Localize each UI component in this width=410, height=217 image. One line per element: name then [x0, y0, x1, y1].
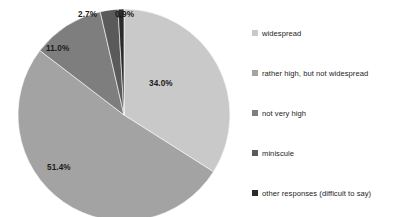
slice-label-widespread: 34.0% [149, 79, 173, 88]
legend-item[interactable]: rather high, but not widespread [252, 67, 368, 79]
legend-item-label: widespread [262, 29, 301, 38]
pie-svg [0, 0, 248, 217]
pie-plot-area: 34.0% 51.4% 11.0% 2.7% 0.9% [0, 0, 248, 217]
pie-chart-figure: 34.0% 51.4% 11.0% 2.7% 0.9% widespreadra… [0, 0, 410, 217]
chart-legend: widespreadrather high, but not widesprea… [252, 0, 410, 217]
slice-label-miniscule: 2.7% [78, 10, 97, 19]
legend-swatch-icon [252, 150, 258, 156]
legend-swatch-icon [252, 30, 258, 36]
legend-swatch-icon [252, 190, 258, 196]
legend-item[interactable]: widespread [252, 27, 301, 39]
legend-item[interactable]: miniscule [252, 147, 294, 159]
legend-item-label: rather high, but not widespread [262, 69, 368, 78]
legend-swatch-icon [252, 110, 258, 116]
legend-item-label: miniscule [262, 149, 294, 158]
legend-item-label: not very high [262, 109, 306, 118]
slice-label-not-very-high: 11.0% [46, 44, 69, 53]
slice-label-rather-high: 51.4% [47, 163, 71, 172]
legend-item-label: other responses (difficult to say) [262, 189, 371, 198]
legend-item[interactable]: other responses (difficult to say) [252, 187, 371, 199]
pie-slices [18, 9, 230, 217]
slice-label-other: 0.9% [115, 10, 134, 19]
legend-swatch-icon [252, 70, 258, 76]
legend-item[interactable]: not very high [252, 107, 306, 119]
